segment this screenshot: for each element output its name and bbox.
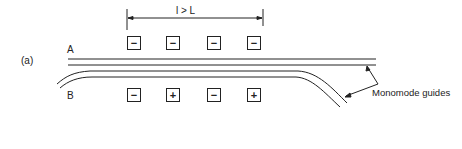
guide-a — [68, 59, 376, 65]
dimension-label: l > L — [176, 6, 195, 16]
electrode-b-2: + — [166, 88, 180, 102]
electrode-a-1: − — [127, 36, 141, 50]
electrode-a-4: − — [247, 36, 261, 50]
electrode-a-3: − — [207, 36, 221, 50]
guide-a-label: A — [67, 45, 74, 55]
electrode-b-1: − — [127, 88, 141, 102]
guide-b — [57, 71, 347, 107]
guide-b-label: B — [67, 91, 74, 101]
panel-label: (a) — [21, 56, 33, 66]
annotation-label: Monomode guides — [372, 88, 450, 98]
diagram-lines — [0, 0, 462, 149]
electrode-a-2: − — [166, 36, 180, 50]
electrode-b-3: − — [207, 88, 221, 102]
electrode-b-4: + — [247, 88, 261, 102]
